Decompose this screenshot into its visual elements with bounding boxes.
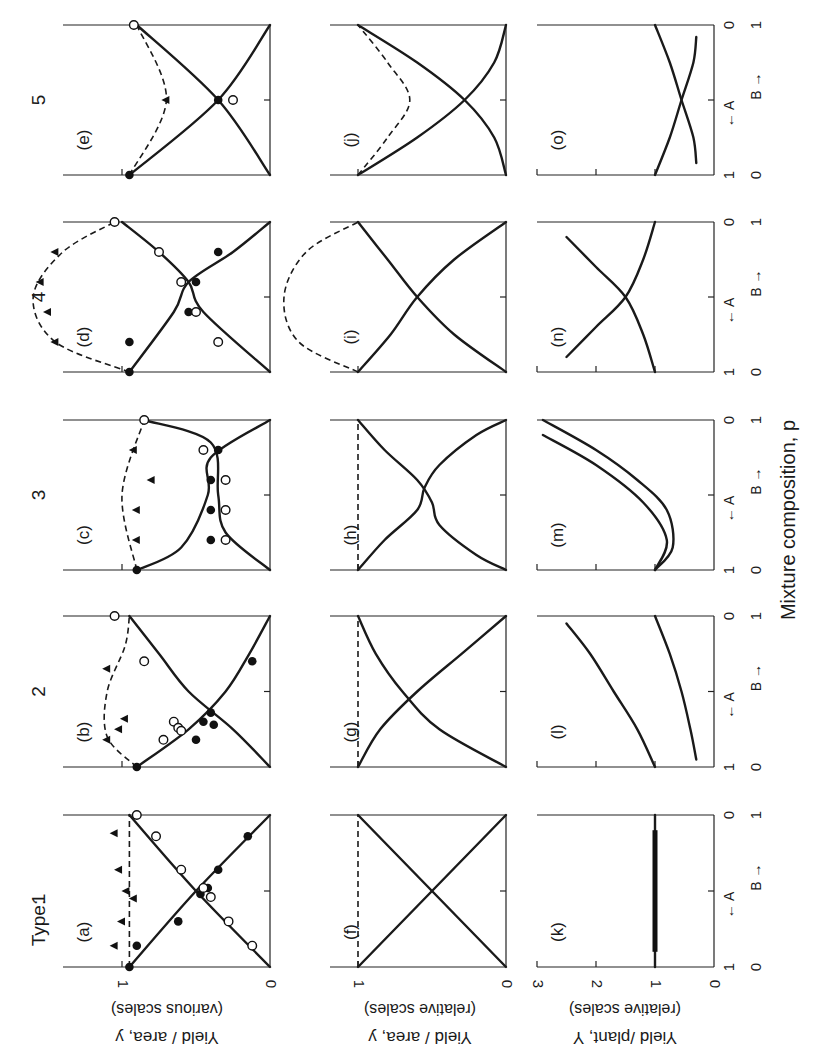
A-curve [567, 237, 656, 372]
panel-label-e: (e) [74, 130, 93, 151]
panel-label-d: (d) [74, 327, 93, 348]
p-tick-A0: 0 [720, 21, 737, 29]
B-curve [655, 616, 696, 760]
type-number-3: 3 [28, 490, 49, 501]
A-point [192, 736, 201, 745]
panel-k [537, 815, 714, 967]
A-point [125, 963, 134, 972]
total-point [102, 736, 110, 744]
total-point [120, 715, 128, 723]
p-tick-A0: 0 [720, 416, 737, 424]
arrow-A: ← A [721, 100, 737, 127]
p-tick-A1: 1 [720, 566, 737, 574]
p-tick-B0: 0 [747, 963, 764, 971]
B-curve [129, 616, 270, 767]
total-curve [358, 25, 410, 175]
B-point [159, 736, 168, 745]
A-point [214, 865, 223, 874]
A-point [133, 941, 142, 950]
A-curve [137, 616, 270, 767]
figure-canvas: (a)(b)(c)(d)(e)(f)(g)(h)(i)(j)(k)(l)(m)(… [0, 0, 815, 1062]
A-curve [655, 37, 696, 175]
p-tick-A1: 1 [720, 963, 737, 971]
type-number-4: 4 [28, 291, 49, 302]
B-point [110, 218, 119, 227]
B-curve [358, 222, 506, 372]
panel-f [330, 815, 506, 967]
panel-e [63, 21, 270, 180]
A-point [214, 248, 223, 257]
value-tick-label: 2 [589, 980, 606, 988]
A-curve [129, 25, 270, 175]
B-curve [122, 222, 270, 372]
A-curve [358, 222, 506, 372]
B-point [229, 96, 238, 105]
p-tick-B0: 0 [747, 171, 764, 179]
total-point [121, 887, 129, 895]
B-point [221, 476, 230, 485]
type-number-5: 5 [28, 95, 49, 106]
x-axis-title: Mixture composition, p [777, 420, 799, 620]
B-point [221, 506, 230, 515]
B-point [130, 21, 139, 30]
value-tick-label: 1 [648, 980, 665, 988]
p-tick-B1: 1 [747, 21, 764, 29]
panel-label-a: (a) [74, 922, 93, 943]
panel-label-c: (c) [74, 525, 93, 545]
A-point [207, 476, 216, 485]
A-point [133, 566, 142, 575]
p-tick-B1: 1 [747, 218, 764, 226]
B-point [155, 248, 164, 257]
A-point [244, 832, 253, 841]
value-tick-label: 0 [499, 980, 516, 988]
arrow-A: ← A [721, 495, 737, 522]
total-point [132, 536, 140, 544]
p-tick-A1: 1 [720, 368, 737, 376]
y-label-various-sub: (various scales) [111, 1001, 223, 1018]
B-point [140, 657, 149, 666]
total-point [147, 476, 155, 484]
A-point [125, 171, 134, 180]
y-label-relative-sub: (relative scales) [364, 1001, 476, 1018]
B-point [224, 917, 233, 926]
panel-label-h: (h) [341, 525, 360, 546]
total-point [110, 829, 118, 837]
value-tick-label: 0 [263, 980, 280, 988]
type-label: Type: [28, 900, 49, 946]
B-point [214, 338, 223, 347]
arrow-A: ← A [721, 891, 737, 918]
arrow-B: B → [748, 863, 764, 890]
A-point [192, 278, 201, 287]
total-point [102, 665, 110, 673]
p-tick-B0: 0 [747, 566, 764, 574]
total-point [50, 248, 58, 256]
B-point [177, 278, 186, 287]
arrow-B: B → [748, 72, 764, 99]
B-point [199, 446, 208, 455]
value-tick-label: 1 [351, 980, 368, 988]
B-curve [567, 222, 656, 357]
panel-d [33, 218, 270, 377]
replacement-series-figure: (a)(b)(c)(d)(e)(f)(g)(h)(i)(j)(k)(l)(m)(… [0, 0, 815, 1062]
A-curve [358, 616, 506, 767]
panel-label-f: (f) [341, 924, 360, 940]
panel-label-n: (n) [548, 327, 567, 348]
A-curve [358, 420, 506, 570]
y-label-relative: Yield / area, y [368, 1028, 472, 1047]
A-point [125, 338, 134, 347]
A-curve [567, 624, 656, 768]
total-point [114, 725, 122, 733]
panel-label-b: (b) [74, 722, 93, 743]
p-tick-A0: 0 [720, 218, 737, 226]
p-tick-B0: 0 [747, 763, 764, 771]
p-tick-B1: 1 [747, 612, 764, 620]
B-curve [358, 616, 506, 767]
panel-i [284, 222, 506, 372]
y-label-plant-sub: (relative scales) [569, 1001, 681, 1018]
B-curve [655, 25, 696, 163]
panel-l [537, 616, 714, 767]
B-curve [358, 25, 506, 175]
A-point [207, 708, 216, 717]
A-point [133, 763, 142, 772]
B-point [207, 893, 216, 902]
